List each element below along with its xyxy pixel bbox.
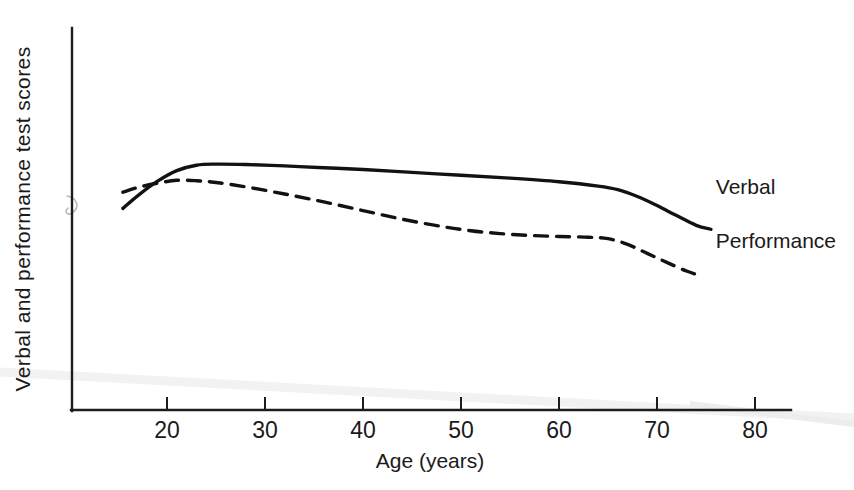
x-axis-tick-label: 80: [742, 417, 768, 443]
x-axis-title: Age (years): [376, 449, 485, 472]
series-label-verbal: Verbal: [716, 175, 776, 198]
x-axis-tick-label: 70: [644, 417, 670, 443]
line-chart: 20304050607080 Verbal Performance Age (y…: [0, 0, 854, 490]
x-axis-tick-label: 20: [154, 417, 180, 443]
x-axis-tick-label: 40: [350, 417, 376, 443]
x-axis-tick-label: 50: [448, 417, 474, 443]
y-axis-title: Verbal and performance test scores: [11, 46, 34, 391]
figure-page: 20304050607080 Verbal Performance Age (y…: [0, 0, 854, 490]
x-axis-tick-label: 30: [252, 417, 278, 443]
series-label-performance: Performance: [716, 229, 836, 252]
x-axis-tick-label: 60: [546, 417, 572, 443]
